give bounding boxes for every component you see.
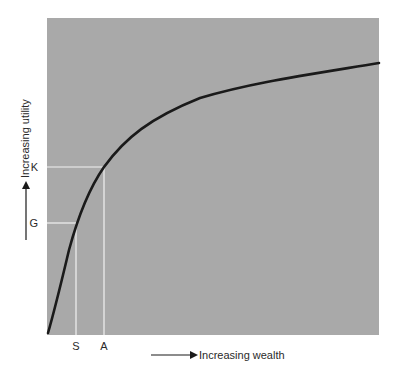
utility-wealth-diagram: K G S A Increasing wealth Increasing uti… [0,0,400,375]
marker-label-g: G [29,217,38,229]
marker-label-a: A [100,340,108,352]
y-axis-label: Increasing utility [19,99,31,178]
marker-label-k: K [31,161,39,173]
x-axis-label: Increasing wealth [199,349,285,361]
marker-label-s: S [72,340,79,352]
